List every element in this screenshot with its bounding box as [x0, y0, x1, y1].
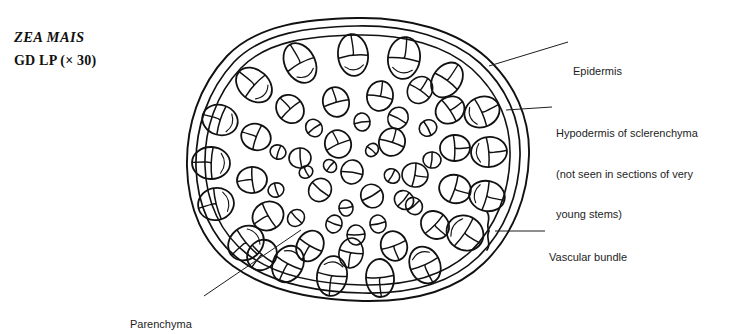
vascular-bundle — [284, 206, 308, 230]
bundle-chord-line — [275, 256, 301, 271]
vascular-bundle — [266, 181, 286, 199]
vascular-bundle — [237, 120, 274, 155]
bundle-inner-contour — [223, 191, 231, 211]
bundle-chord-line — [299, 239, 321, 253]
bundle-chord-line — [455, 218, 475, 246]
bundle-division-line — [424, 265, 432, 282]
bundle-chord-line — [411, 258, 438, 271]
bundle-division-line — [420, 79, 428, 90]
figure-title-block: ZEA MAIS GD LP (× 30) — [14, 28, 194, 69]
bundle-division-line — [193, 162, 211, 163]
bundle-chord-line — [303, 167, 309, 178]
vascular-bundle — [422, 151, 442, 169]
vascular-bundle — [320, 126, 355, 162]
bundle-chord-line — [424, 121, 432, 135]
bundle-division-line — [487, 196, 504, 201]
bundle-division-line — [232, 243, 246, 255]
vascular-bundle — [375, 125, 408, 160]
label-hypodermis-line1: Hypodermis of sclerenchyma — [556, 127, 698, 141]
bundle-chord-line — [326, 162, 334, 171]
figure-subtitle: GD LP (× 30) — [14, 53, 194, 69]
bundle-chord-line — [367, 146, 376, 154]
bundle-chord-line — [380, 138, 404, 147]
vascular-bundle — [268, 143, 288, 161]
leader-line-epidermis — [489, 42, 568, 66]
vascular-bundle — [336, 33, 370, 78]
bundle-chord-line — [274, 183, 279, 196]
bundle-chord-line — [339, 206, 353, 208]
bundle-chord-line — [340, 250, 363, 255]
bundle-division-line — [329, 276, 332, 295]
vascular-bundle — [470, 135, 508, 168]
bundle-chord-line — [362, 190, 381, 201]
bundle-division-line — [392, 129, 397, 142]
bundle-chord-line — [281, 101, 300, 119]
bundle-inner-contour — [221, 153, 225, 173]
label-hypodermis-line2: (not seen in sections of very — [556, 168, 698, 182]
page-title: ZEA MAIS — [14, 28, 194, 46]
bundle-chord-line — [261, 204, 276, 228]
vascular-bundles-group — [191, 33, 508, 298]
bundle-division-line — [280, 98, 290, 109]
bundle-chord-line — [354, 121, 369, 124]
bundle-division-line — [238, 179, 252, 181]
bundle-chord-line — [435, 72, 458, 89]
vascular-bundle — [356, 180, 387, 212]
bundle-inner-contour — [448, 217, 463, 236]
bundle-chord-line — [412, 163, 417, 186]
vascular-bundle — [229, 60, 279, 109]
bundle-inner-contour — [472, 184, 480, 203]
bundle-chord-line — [389, 114, 406, 124]
bundle-chord-line — [327, 139, 350, 150]
bundle-chord-line — [430, 152, 432, 168]
bundle-chord-line — [367, 94, 392, 99]
bundle-division-line — [393, 246, 398, 259]
bundle-chord-line — [312, 182, 329, 196]
label-parenchyma: Parenchyma — [130, 291, 192, 334]
bundle-chord-line — [276, 146, 281, 159]
label-epidermis: Epidermis — [573, 38, 622, 106]
vascular-bundle — [323, 213, 344, 235]
bundle-chord-line — [482, 182, 490, 211]
bundle-division-line — [332, 88, 337, 102]
bundle-division-line — [455, 189, 470, 194]
label-parenchyma-line1: Parenchyma — [130, 318, 192, 332]
vascular-bundle — [319, 84, 352, 120]
bundle-division-line — [254, 216, 267, 224]
vascular-bundle — [459, 91, 504, 133]
vascular-bundle — [270, 89, 309, 129]
bundle-division-line — [291, 45, 301, 63]
vascular-bundle — [391, 187, 418, 214]
bundle-division-line — [351, 35, 354, 55]
bundle-chord-line — [308, 124, 321, 134]
vascular-bundle — [368, 214, 387, 235]
bundle-division-line — [435, 225, 446, 235]
bundle-division-line — [455, 147, 469, 148]
bundle-division-line — [242, 131, 255, 136]
bundle-chord-line — [287, 56, 313, 71]
vascular-bundle — [302, 116, 326, 140]
bundle-chord-line — [299, 148, 301, 167]
bundle-chord-line — [475, 99, 488, 126]
vascular-bundle — [198, 100, 242, 140]
bundle-chord-line — [370, 222, 385, 226]
stem-outline — [187, 18, 529, 301]
bundle-division-line — [415, 175, 427, 178]
vascular-bundle — [277, 37, 323, 88]
vascular-bundle — [321, 157, 339, 175]
bundle-division-line — [333, 131, 339, 143]
bundle-inner-contour — [392, 67, 412, 74]
bundle-chord-line — [252, 125, 262, 149]
vascular-bundle — [466, 177, 508, 215]
bundle-chord-line — [341, 171, 362, 175]
bundle-division-line — [447, 65, 458, 80]
bundle-inner-contour — [345, 65, 364, 71]
bundle-chord-line — [216, 106, 226, 134]
vascular-bundle — [304, 174, 336, 207]
vascular-bundle — [247, 196, 289, 236]
vascular-bundle — [416, 117, 439, 140]
vascular-bundle — [440, 134, 471, 161]
vascular-bundle — [338, 199, 354, 217]
bundle-division-line — [380, 82, 383, 96]
